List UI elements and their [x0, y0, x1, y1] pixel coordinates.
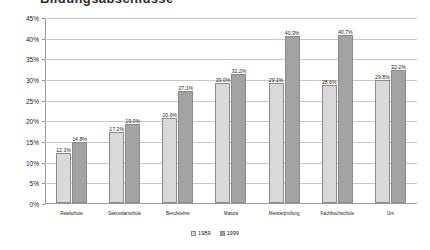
plot-area: 0%5%10%15%20%25%30%35%40%45% 12.1%14.8%1… [45, 18, 417, 204]
bar-group: 29.8%32.2% [364, 18, 417, 203]
legend-swatch-icon [220, 231, 225, 236]
chart-legend: 19891999 [0, 230, 430, 236]
x-axis-category-label: Matura [204, 208, 257, 220]
bar[interactable]: 40.7% [338, 35, 353, 203]
y-axis-tick-label: 5% [30, 180, 39, 187]
bar[interactable]: 28.6% [322, 85, 337, 203]
bar-value-label: 40.3% [285, 30, 300, 36]
bar-chart: Bildungsabschlüsse 0%5%10%15%20%25%30%35… [0, 0, 430, 250]
bar-value-label: 12.1% [56, 147, 71, 153]
legend-item[interactable]: 1999 [220, 230, 239, 236]
bar[interactable]: 12.1% [56, 153, 71, 203]
y-axis-tick-label: 40% [26, 35, 39, 42]
bar-value-label: 40.7% [338, 29, 353, 35]
bar-value-label: 31.2% [232, 68, 247, 74]
legend-label: 1989 [198, 230, 210, 236]
bar[interactable]: 27.1% [178, 91, 193, 203]
y-axis-tick-label: 45% [26, 15, 39, 22]
x-axis-category-label: Meisterprüfung [258, 208, 311, 220]
bar-group: 29.1%40.3% [258, 18, 311, 203]
bar[interactable]: 19.0% [125, 124, 140, 203]
x-axis-category-label: Sekundarschule [98, 208, 151, 220]
y-axis-tick-label: 20% [26, 118, 39, 125]
bar-value-label: 29.1% [269, 77, 284, 83]
x-axis-category-label: Uni [364, 208, 417, 220]
bar[interactable]: 32.2% [391, 70, 406, 203]
x-axis-line [45, 203, 417, 204]
chart-title-clipped: Bildungsabschlüsse [0, 0, 430, 7]
bar-group: 17.2%19.0% [98, 18, 151, 203]
y-axis-tick [42, 204, 45, 205]
x-axis-category-labels: RealschuleSekundarschuleBerufslehreMatur… [45, 208, 417, 220]
bar-value-label: 28.6% [322, 79, 337, 85]
bar-value-label: 17.2% [109, 126, 124, 132]
y-axis-tick-label: 15% [26, 139, 39, 146]
chart-title: Bildungsabschlüsse [40, 0, 174, 6]
x-axis-category-label: Realschule [45, 208, 98, 220]
bar[interactable]: 20.6% [162, 118, 177, 203]
bar-value-label: 14.8% [72, 136, 87, 142]
bar-value-label: 29.8% [375, 74, 390, 80]
x-axis-category-label: Berufslehre [151, 208, 204, 220]
bar[interactable]: 29.0% [215, 83, 230, 203]
bar-value-label: 27.1% [178, 85, 193, 91]
legend-item[interactable]: 1989 [191, 230, 210, 236]
y-axis-tick-label: 30% [26, 77, 39, 84]
bar[interactable]: 40.3% [285, 36, 300, 203]
bar-group: 12.1%14.8% [45, 18, 98, 203]
legend-label: 1999 [227, 230, 239, 236]
y-axis-tick-label: 25% [26, 97, 39, 104]
bar[interactable]: 29.1% [269, 83, 284, 203]
bar-value-label: 19.0% [125, 118, 140, 124]
y-axis-tick-label: 10% [26, 159, 39, 166]
bar-value-label: 20.6% [162, 112, 177, 118]
bar-group: 29.0%31.2% [204, 18, 257, 203]
bar[interactable]: 29.8% [375, 80, 390, 203]
bar[interactable]: 17.2% [109, 132, 124, 203]
legend-swatch-icon [191, 231, 196, 236]
y-axis-tick-label: 0% [30, 201, 39, 208]
bar[interactable]: 14.8% [72, 142, 87, 203]
bar-groups: 12.1%14.8%17.2%19.0%20.6%27.1%29.0%31.2%… [45, 18, 417, 203]
bar[interactable]: 31.2% [231, 74, 246, 203]
x-axis-category-label: Fachhochschule [311, 208, 364, 220]
y-axis-tick-label: 35% [26, 56, 39, 63]
bar-group: 28.6%40.7% [311, 18, 364, 203]
bar-value-label: 29.0% [216, 77, 231, 83]
bar-group: 20.6%27.1% [151, 18, 204, 203]
bar-value-label: 32.2% [391, 64, 406, 70]
